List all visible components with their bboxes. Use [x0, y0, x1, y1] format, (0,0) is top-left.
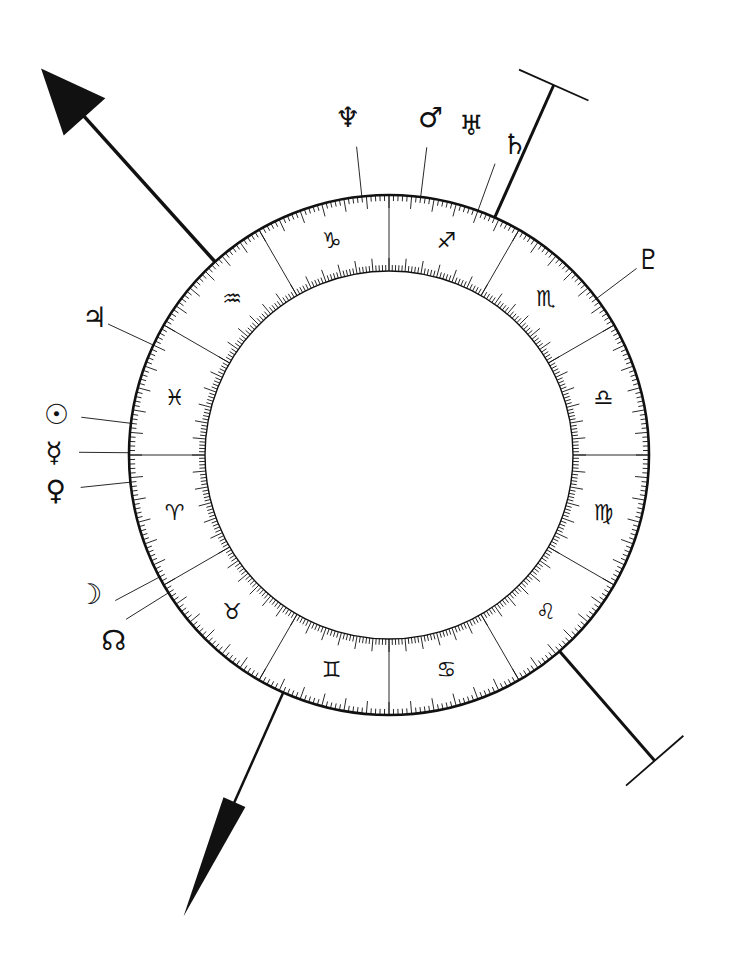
inner-degree-tick — [517, 587, 521, 591]
outer-degree-tick — [632, 410, 645, 412]
inner-degree-tick — [209, 393, 215, 395]
inner-degree-tick — [230, 352, 235, 355]
inner-degree-tick — [372, 259, 373, 272]
inner-degree-tick — [359, 267, 360, 273]
inner-degree-tick — [408, 266, 409, 272]
inner-degree-tick — [259, 316, 263, 320]
inner-degree-tick — [475, 617, 478, 622]
inner-degree-tick — [495, 294, 502, 305]
inner-degree-tick — [572, 474, 578, 475]
inner-degree-tick — [203, 493, 209, 494]
degree-ticks — [129, 195, 649, 715]
outer-degree-tick — [635, 477, 648, 478]
inner-degree-tick — [228, 354, 233, 357]
inner-degree-tick — [318, 626, 320, 632]
inner-degree-tick — [487, 611, 490, 616]
inner-degree-tick — [206, 506, 212, 508]
inner-degree-tick — [455, 627, 457, 633]
inner-degree-tick — [461, 624, 463, 630]
outer-degree-tick — [613, 559, 625, 564]
inner-degree-tick — [570, 421, 583, 423]
inner-degree-tick — [315, 624, 317, 630]
outer-degree-tick — [145, 539, 157, 543]
inner-degree-tick — [272, 600, 276, 605]
inner-degree-tick — [283, 608, 286, 613]
inner-degree-tick — [372, 638, 373, 651]
inner-degree-tick — [405, 259, 406, 272]
outer-degree-tick — [473, 687, 477, 699]
inner-degree-tick — [434, 634, 435, 640]
inner-degree-tick — [291, 292, 294, 297]
outer-degree-tick — [411, 701, 412, 714]
inner-degree-tick — [291, 613, 294, 618]
inner-degree-tick — [526, 578, 530, 582]
outer-degree-tick — [133, 410, 146, 412]
inner-degree-tick — [248, 328, 252, 332]
zodiac-signs: ♎♏♐♑♒♓♈♉♊♋♌♍ — [165, 228, 614, 682]
planet-glyph-neptune: ♆ — [335, 101, 360, 134]
inner-degree-tick — [343, 271, 344, 277]
inner-degree-tick — [563, 515, 569, 517]
planet-glyph-mercury: ☿ — [45, 436, 62, 469]
imum-coeli-bar-line — [560, 651, 655, 760]
inner-degree-tick — [551, 366, 556, 369]
inner-degree-tick — [492, 608, 495, 613]
inner-degree-tick — [349, 269, 350, 275]
inner-degree-tick — [262, 592, 266, 596]
inner-degree-tick — [201, 429, 207, 430]
planet-line-sun — [81, 417, 131, 423]
inner-degree-tick — [561, 521, 567, 523]
planet-glyph-moon: ☽ — [77, 578, 102, 611]
inner-degree-tick — [223, 363, 228, 366]
ascendant-arrow-head — [41, 69, 105, 136]
planet-line-moon — [115, 577, 159, 600]
inner-degree-tick — [517, 318, 521, 322]
inner-degree-tick — [202, 419, 208, 420]
inner-degree-tick — [536, 566, 541, 570]
inner-degree-tick — [235, 563, 240, 567]
inner-degree-tick — [547, 357, 552, 360]
sign-glyph-leo: ♌ — [536, 599, 556, 624]
outer-degree-tick — [133, 498, 146, 500]
inner-degree-tick — [489, 609, 492, 614]
inner-degree-tick — [200, 435, 206, 436]
inner-degree-tick — [355, 636, 357, 649]
planet-glyph-north-node: ☊ — [101, 624, 126, 657]
inner-degree-tick — [421, 261, 423, 274]
inner-degree-tick — [315, 280, 317, 286]
outer-degree-tick — [366, 701, 367, 714]
inner-degree-tick — [534, 338, 539, 342]
inner-degree-tick — [464, 623, 466, 628]
inner-degree-tick — [473, 619, 476, 624]
inner-degree-tick — [572, 471, 585, 472]
inner-degree-tick — [349, 635, 350, 641]
outer-degree-tick — [138, 519, 151, 522]
inner-degree-tick — [571, 429, 577, 430]
inner-degree-tick — [540, 561, 551, 568]
inner-degree-tick — [201, 425, 207, 426]
inner-degree-tick — [497, 604, 501, 609]
inner-degree-tick — [238, 328, 248, 336]
inner-degree-tick — [257, 318, 261, 322]
inner-degree-tick — [408, 638, 409, 644]
inner-degree-tick — [421, 636, 423, 649]
inner-degree-tick — [366, 266, 367, 272]
outer-degree-tick — [628, 519, 641, 522]
outer-degree-tick — [153, 345, 165, 350]
inner-degree-tick — [446, 630, 448, 636]
sign-glyph-libra: ♎ — [594, 385, 614, 410]
inner-degree-tick — [327, 275, 329, 281]
inner-degree-tick — [228, 553, 233, 556]
inner-degree-tick — [239, 568, 244, 572]
outer-degree-tick — [635, 432, 648, 433]
inner-degree-tick — [487, 294, 490, 299]
inner-degree-tick — [542, 349, 547, 352]
inner-degree-tick — [231, 558, 236, 561]
inner-degree-tick — [538, 343, 543, 347]
inner-degree-tick — [532, 571, 537, 575]
inner-degree-tick — [449, 629, 451, 635]
inner-degree-tick — [286, 609, 289, 614]
planet-glyph-uranus: ♅ — [459, 109, 484, 142]
inner-degree-tick — [353, 636, 354, 642]
inner-degree-tick — [209, 515, 215, 517]
